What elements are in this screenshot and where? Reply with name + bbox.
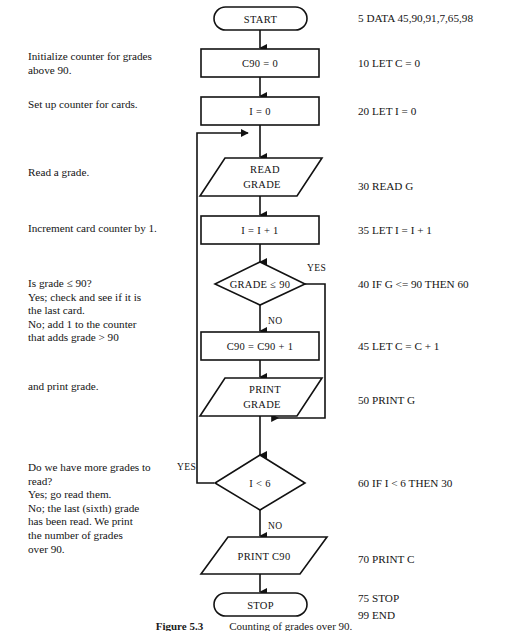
print-grade-label-line1: PRINT [249,384,281,395]
code-line-30: 30 READ G [358,180,413,194]
figure-page: START C90 = 0 I = 0 READ GRADE I = I + 1… [0,0,508,631]
figure-caption: Figure 5.3Counting of grades over 90. [0,620,508,631]
branch-label-grade-yes: YES [307,263,326,273]
read-grade-label-line2: GRADE [243,179,281,190]
code-line-75: 75 STOP [358,592,399,606]
note-card-counter: Set up counter for cards. [28,98,196,112]
code-line-60: 60 IF I < 6 THEN 30 [358,477,452,491]
note-more-grades: Do we have more grades to read? Yes; go … [28,461,196,556]
print-c90-label: PRINT C90 [238,551,291,562]
code-line-40: 40 IF G <= 90 THEN 60 [358,278,469,292]
node-grade-test[interactable]: GRADE ≤ 90 [215,262,305,305]
note-increment: Increment card counter by 1. [28,222,196,236]
node-c90-init[interactable]: C90 = 0 [201,49,319,77]
code-line-45: 45 LET C = C + 1 [358,340,439,354]
read-grade-label-line1: READ [250,164,280,175]
stop-label: STOP [247,600,274,611]
node-loop-test[interactable]: I < 6 [215,455,305,510]
figure-caption-text: Counting of grades over 90. [229,620,352,631]
node-increment-i[interactable]: I = I + 1 [201,216,319,244]
increment-i-label: I = I + 1 [241,225,278,236]
node-i-init[interactable]: I = 0 [201,97,319,125]
code-line-5: 5 DATA 45,90,91,7,65,98 [358,12,473,26]
branch-label-grade-no: NO [268,316,283,326]
node-start[interactable]: START [214,7,307,30]
figure-caption-label: Figure 5.3 [156,620,203,631]
c90-init-label: C90 = 0 [242,58,278,69]
node-print-c90[interactable]: PRINT C90 [201,537,327,574]
code-line-35: 35 LET I = I + 1 [358,224,432,238]
note-print-grade: and print grade. [28,380,196,394]
node-stop[interactable]: STOP [214,593,307,616]
note-read-grade: Read a grade. [28,166,196,180]
code-line-20: 20 LET I = 0 [358,105,416,119]
start-label: START [244,14,278,25]
note-init-counter: Initialize counter for grades above 90. [28,50,196,77]
note-grade-test: Is grade ≤ 90? Yes; check and see if it … [28,277,196,345]
code-line-50: 50 PRINT G [358,394,415,408]
print-grade-label-line2: GRADE [243,399,281,410]
branch-label-loop-no: NO [268,521,283,531]
node-c90-increment[interactable]: C90 = C90 + 1 [201,332,319,360]
grade-test-label: GRADE ≤ 90 [230,279,291,290]
node-print-grade[interactable]: PRINT GRADE [200,378,322,416]
code-line-10: 10 LET C = 0 [358,57,420,71]
i-init-label: I = 0 [249,106,270,117]
loop-test-label: I < 6 [249,478,270,489]
code-line-70: 70 PRINT C [358,553,414,567]
node-read-grade[interactable]: READ GRADE [200,158,322,196]
c90-increment-label: C90 = C90 + 1 [227,341,294,352]
